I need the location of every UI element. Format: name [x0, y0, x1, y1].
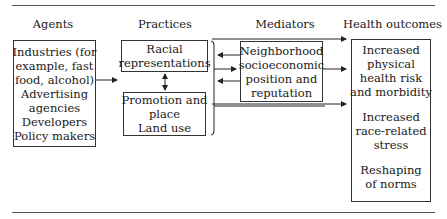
agents-line: example, fast: [16, 59, 94, 73]
header-practices: Practices: [124, 17, 206, 31]
header-mediators: Mediators: [242, 17, 328, 31]
header-health-outcomes: Health outcomes: [343, 17, 441, 31]
top-rule: [12, 5, 435, 6]
mediators-box: Neighborhood socioeconomic position and …: [240, 41, 323, 102]
outcome-line: Increased: [350, 43, 432, 57]
outcome-line: of norms: [360, 177, 421, 191]
outcome-line: physical: [350, 57, 432, 71]
outcome-line: health risk: [350, 71, 432, 85]
practices-line: representations: [118, 56, 210, 70]
mediators-line: socioeconomic: [239, 58, 324, 72]
outcome-line: and morbidity: [350, 85, 432, 99]
agents-line: Policy makers: [14, 129, 95, 143]
agents-line: agencies: [29, 101, 80, 115]
promotion-and-place-box: Promotion and place Land use: [123, 92, 206, 136]
outcome-reshaping-norms: Reshaping of norms: [360, 163, 421, 191]
agents-line: Advertising: [21, 87, 88, 101]
health-outcomes-box: Increased physical health risk and morbi…: [351, 39, 431, 202]
practices-line: Land use: [138, 121, 191, 135]
mediators-line: reputation: [251, 86, 312, 100]
outcome-physical-health: Increased physical health risk and morbi…: [350, 43, 432, 99]
outcome-line: Increased: [355, 110, 426, 124]
mediators-line: Neighborhood: [240, 44, 324, 58]
header-agents: Agents: [16, 17, 90, 31]
racial-representations-box: Racial representations: [121, 40, 208, 72]
outcome-line: stress: [355, 138, 426, 152]
outcome-race-related-stress: Increased race-related stress: [355, 110, 426, 152]
mediators-line: position and: [246, 72, 318, 86]
outcome-line: race-related: [355, 124, 426, 138]
practices-line: Racial: [146, 42, 182, 56]
outcome-line: Reshaping: [360, 163, 421, 177]
practices-bracket: [211, 41, 214, 135]
agents-line: Industries (for: [13, 45, 97, 59]
agents-line: Developers: [22, 115, 88, 129]
agents-line: food, alcohol): [15, 73, 94, 87]
practices-line: Promotion and: [122, 93, 208, 107]
practices-line: place: [149, 107, 180, 121]
agents-box: Industries (for example, fast food, alco…: [13, 40, 96, 147]
bottom-rule: [12, 212, 435, 213]
